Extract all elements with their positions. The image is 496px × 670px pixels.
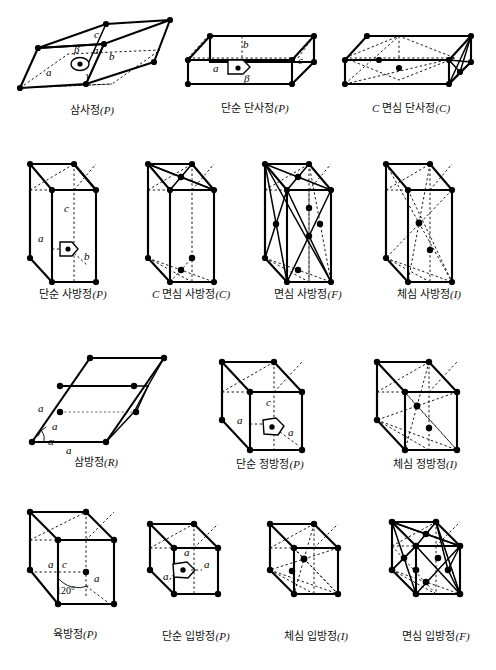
svg-text:a: a [288, 426, 294, 438]
svg-text:a: a [66, 444, 72, 456]
caption-cubic-i: 체심 입방정(I) [258, 630, 374, 643]
svg-text:γ: γ [86, 69, 91, 81]
caption-orthorhombic-p: 단순 사방정(P) [12, 288, 134, 301]
svg-text:a: a [46, 66, 52, 78]
caption-monoclinic-p: 단순 단사정(P) [180, 102, 330, 115]
svg-text:b: b [109, 50, 115, 62]
lattice-cell-cubic-f: 면심 입방정(F) [378, 508, 494, 652]
rhombohedral-r-diagram: a a α a [8, 346, 184, 456]
svg-text:a: a [184, 546, 190, 558]
svg-text:c: c [62, 558, 67, 570]
lattice-cell-orthorhombic-p: c a b 단순 사방정(P) [12, 150, 134, 312]
bravais-lattice-figure: c β a b γ a 삼사정(P) [0, 0, 496, 670]
caption-orthorhombic-c: C 면심 사방정(C) [130, 288, 252, 301]
orthorhombic-p-diagram: c a b [12, 150, 134, 290]
caption-orthorhombic-i: 체심 사방정(I) [368, 288, 490, 301]
svg-text:a: a [38, 402, 44, 414]
lattice-cell-triclinic-p: c β a b γ a 삼사정(P) [8, 6, 176, 124]
svg-text:b: b [84, 250, 90, 262]
caption-triclinic-p: 삼사정(P) [8, 104, 176, 117]
svg-text:a: a [163, 570, 169, 582]
orthorhombic-c-diagram [130, 150, 252, 290]
triclinic-p-diagram: c β a b γ a [8, 6, 176, 106]
caption-hexagonal-p: 육방정(P) [10, 628, 140, 641]
svg-text:a: a [38, 232, 44, 244]
orthorhombic-i-diagram [368, 150, 490, 290]
cubic-p-diagram: a a a [138, 512, 254, 630]
svg-text:b: b [243, 38, 249, 50]
lattice-cell-tetragonal-p: c a a 단순 정방정(P) [200, 348, 340, 474]
monoclinic-c-diagram [333, 22, 489, 104]
svg-text:a: a [213, 62, 219, 74]
caption-cubic-p: 단순 입방정(P) [138, 630, 254, 643]
tetragonal-p-diagram: c a a [200, 348, 340, 458]
caption-cubic-f: 면심 입방정(F) [378, 630, 494, 643]
lattice-cell-cubic-i: 체심 입방정(I) [258, 512, 374, 652]
svg-text:a: a [237, 414, 243, 426]
lattice-cell-tetragonal-i: 체심 정방정(I) [355, 348, 495, 474]
lattice-cell-monoclinic-p: b a β c 단순 단사정(P) [180, 22, 330, 124]
lattice-cell-orthorhombic-i: 체심 사방정(I) [368, 150, 490, 312]
svg-text:a: a [93, 44, 99, 56]
svg-text:β: β [73, 43, 80, 55]
svg-text:a: a [94, 572, 100, 584]
caption-orthorhombic-f: 면심 사방정(F) [247, 288, 369, 301]
lattice-cell-hexagonal-p: c a a 120° 육방정(P) [10, 500, 140, 650]
caption-tetragonal-i: 체심 정방정(I) [355, 458, 495, 471]
cubic-i-diagram [258, 512, 374, 630]
svg-text:a: a [48, 558, 54, 570]
lattice-cell-orthorhombic-f: 면심 사방정(F) [247, 150, 369, 312]
cubic-f-diagram [378, 508, 494, 630]
lattice-cell-monoclinic-c: C 면심 단사정(C) [333, 22, 489, 124]
hexagonal-p-diagram: c a a 120° [10, 500, 140, 630]
svg-text:c: c [266, 396, 271, 408]
caption-monoclinic-c: C 면심 단사정(C) [333, 102, 489, 115]
lattice-cell-orthorhombic-c: C 면심 사방정(C) [130, 150, 252, 312]
lattice-cell-cubic-p: a a a 단순 입방정(P) [138, 512, 254, 652]
caption-tetragonal-p: 단순 정방정(P) [200, 458, 340, 471]
svg-text:c: c [64, 202, 69, 214]
svg-text:c: c [298, 54, 303, 66]
monoclinic-p-diagram: b a β c [180, 22, 330, 104]
tetragonal-i-diagram [355, 348, 495, 458]
svg-text:a: a [204, 558, 210, 570]
svg-text:α: α [48, 435, 54, 447]
svg-text:a: a [52, 420, 58, 432]
lattice-cell-rhombohedral-r: a a α a 삼방정(R) [8, 346, 184, 472]
svg-text:c: c [94, 28, 99, 40]
orthorhombic-f-diagram [247, 150, 369, 290]
caption-rhombohedral-r: 삼방정(R) [8, 456, 184, 469]
